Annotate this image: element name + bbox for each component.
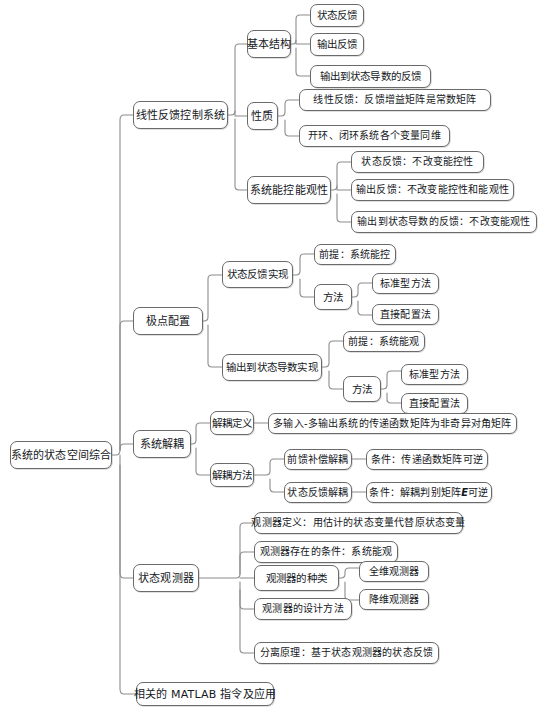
node-direct-placement-method-1[interactable]: 直接配置法	[372, 304, 439, 325]
node-label: 直接配置法	[409, 399, 460, 409]
node-label: 观测器存在的条件：系统能观	[260, 547, 393, 557]
node-canonical-form-method-1[interactable]: 标准型方法	[372, 273, 439, 294]
node-premise-controllable[interactable]: 前提：系统能控	[314, 244, 396, 265]
node-label: 基本结构	[247, 39, 292, 50]
node-methods-output-derivative[interactable]: 方法	[343, 376, 381, 402]
node-label: 观测器的种类	[266, 573, 327, 584]
node-decoupling-methods[interactable]: 解耦方法	[210, 463, 254, 487]
node-label: 输出反馈	[317, 39, 358, 50]
node-label: 观测器定义：用估计的状态变量代替原状态变量	[251, 518, 465, 528]
node-label: 系统能控能观性	[250, 185, 328, 196]
branch-system-decoupling[interactable]: 系统解耦	[133, 430, 191, 458]
node-label: 方法	[323, 292, 343, 303]
node-label: 状态反馈解耦	[287, 488, 348, 498]
node-state-feedback-keeps-controllability[interactable]: 状态反馈：不改变能控性	[351, 151, 484, 173]
node-label: 输出到状态导数的反馈：不改变能观性	[357, 217, 530, 227]
node-methods-state-feedback[interactable]: 方法	[314, 284, 352, 310]
node-condition-decoupling-matrix-E-invertible[interactable]: 条件：解耦判别矩阵 E 可逆	[366, 482, 492, 503]
node-output-to-state-derivative-keeps-observability[interactable]: 输出到状态导数的反馈：不改变能观性	[351, 211, 537, 233]
node-direct-placement-method-2[interactable]: 直接配置法	[401, 393, 468, 414]
node-label: 解耦定义	[212, 418, 253, 429]
node-label-emphasis: E	[461, 488, 468, 498]
node-observer-types[interactable]: 观测器的种类	[254, 565, 339, 591]
node-label: 降维观测器	[369, 595, 420, 605]
node-properties[interactable]: 性质	[247, 102, 278, 130]
node-open-closed-loop-same-dimension[interactable]: 开环、闭环系统各个变量同维	[299, 125, 450, 147]
node-separation-principle[interactable]: 分离原理：基于状态观测器的状态反馈	[254, 642, 439, 664]
node-label: 输出反馈：不改变能控性和能观性	[356, 185, 509, 195]
node-label-post: 可逆	[468, 488, 488, 498]
node-label: 开环、闭环系统各个变量同维	[308, 131, 441, 141]
node-label: 多输入-多输出系统的传递函数矩阵为非奇异对角矩阵	[273, 419, 511, 429]
node-full-order-observer[interactable]: 全维观测器	[359, 561, 429, 582]
node-label: 状态反馈	[317, 10, 358, 21]
node-observer-existence-condition[interactable]: 观测器存在的条件：系统能观	[254, 541, 398, 563]
node-reduced-order-observer[interactable]: 降维观测器	[359, 589, 429, 610]
node-label: 标准型方法	[380, 279, 431, 289]
node-output-to-state-derivative-feedback[interactable]: 输出到状态导数的反馈	[310, 65, 431, 88]
node-decoupling-definition-text[interactable]: 多输入-多输出系统的传递函数矩阵为非奇异对角矩阵	[268, 413, 517, 434]
root-node[interactable]: 系统的状态空间综合	[10, 441, 112, 469]
branch-label: 极点配置	[146, 316, 191, 327]
node-label: 观测器的设计方法	[262, 604, 344, 614]
branch-state-observer[interactable]: 状态观测器	[133, 564, 199, 592]
node-observer-design-method[interactable]: 观测器的设计方法	[254, 598, 352, 620]
node-label: 分离原理：基于状态观测器的状态反馈	[260, 648, 433, 658]
node-label-pre: 条件：解耦判别矩阵	[369, 488, 461, 498]
node-label: 标准型方法	[409, 370, 460, 380]
node-label: 前提：系统能观	[348, 337, 419, 347]
node-state-feedback-realization[interactable]: 状态反馈实现	[222, 261, 293, 288]
node-label: 输出到状态导数的反馈	[320, 71, 422, 82]
node-canonical-form-method-2[interactable]: 标准型方法	[401, 364, 468, 385]
node-output-feedback[interactable]: 输出反馈	[310, 33, 364, 56]
branch-label: 相关的 MATLAB 指令及应用	[134, 689, 277, 700]
node-output-feedback-keeps-both[interactable]: 输出反馈：不改变能控性和能观性	[351, 179, 514, 201]
branch-linear-feedback-control-system[interactable]: 线性反馈控制系统	[133, 101, 228, 129]
branch-label: 系统解耦	[140, 439, 185, 450]
node-label: 状态反馈：不改变能控性	[361, 157, 473, 167]
node-condition-transfer-matrix-invertible[interactable]: 条件：传递函数矩阵可逆	[366, 449, 488, 470]
root-label: 系统的状态空间综合	[11, 450, 112, 461]
branch-label: 状态观测器	[138, 573, 194, 584]
node-label: 方法	[352, 384, 372, 395]
node-decoupling-definition[interactable]: 解耦定义	[210, 411, 254, 435]
node-linear-feedback-gain-constant-matrix[interactable]: 线性反馈：反馈增益矩阵是常数矩阵	[299, 89, 491, 111]
node-controllability-observability[interactable]: 系统能控能观性	[247, 176, 331, 204]
node-label: 直接配置法	[380, 310, 431, 320]
node-feedforward-compensation-decoupling[interactable]: 前馈补偿解耦	[284, 449, 352, 470]
node-state-feedback-decoupling[interactable]: 状态反馈解耦	[284, 482, 352, 503]
node-label: 全维观测器	[369, 567, 420, 577]
branch-label: 线性反馈控制系统	[136, 110, 226, 121]
node-label: 线性反馈：反馈增益矩阵是常数矩阵	[313, 95, 476, 105]
branch-pole-placement[interactable]: 极点配置	[133, 307, 203, 335]
node-label: 输出到状态导数实现	[226, 362, 318, 373]
node-state-feedback[interactable]: 状态反馈	[310, 4, 364, 27]
node-label: 性质	[251, 111, 273, 122]
node-premise-observable[interactable]: 前提：系统能观	[343, 331, 425, 352]
node-label: 前提：系统能控	[319, 250, 390, 260]
node-label: 解耦方法	[212, 470, 253, 481]
branch-matlab-commands[interactable]: 相关的 MATLAB 指令及应用	[136, 682, 274, 706]
node-output-to-state-derivative-realization[interactable]: 输出到状态导数实现	[222, 354, 322, 381]
node-label: 条件：传递函数矩阵可逆	[371, 455, 483, 465]
node-label: 状态反馈实现	[227, 269, 288, 280]
node-label: 前馈补偿解耦	[287, 455, 348, 465]
node-observer-definition[interactable]: 观测器定义：用估计的状态变量代替原状态变量	[254, 512, 463, 534]
mindmap-canvas: 系统的状态空间综合 线性反馈控制系统 基本结构 状态反馈 输出反馈 输出到状态导…	[0, 0, 541, 727]
node-basic-structure[interactable]: 基本结构	[247, 30, 291, 58]
